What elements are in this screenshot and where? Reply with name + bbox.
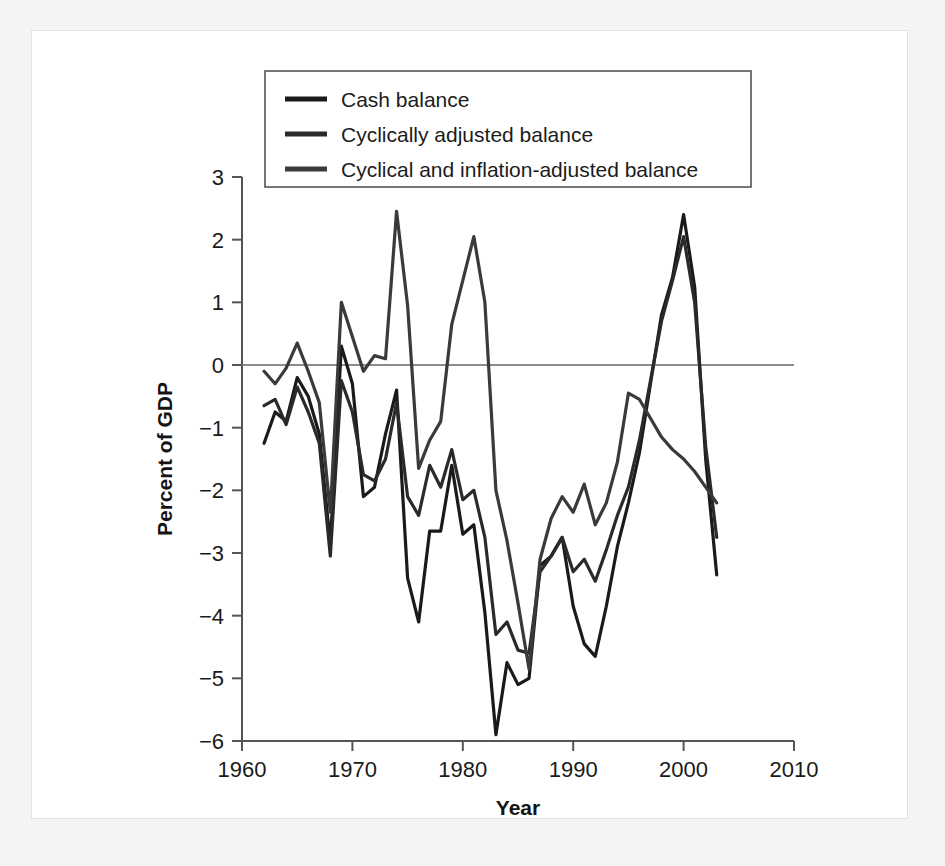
- x-tick-label: 2000: [659, 757, 708, 782]
- y-tick-label: −3: [199, 541, 224, 566]
- y-tick-label: −5: [199, 666, 224, 691]
- x-tick-label: 1960: [218, 757, 267, 782]
- y-axis-title: Percent of GDP: [153, 382, 176, 536]
- legend-label-2: Cyclically adjusted balance: [341, 123, 593, 146]
- legend-label-1: Cash balance: [341, 88, 469, 111]
- y-axis-ticks: −6−5−4−3−2−10123: [199, 165, 242, 754]
- figure-plate: −6−5−4−3−2−10123196019701980199020002010…: [31, 30, 908, 819]
- series-line-2: [264, 237, 717, 654]
- x-axis-title: Year: [496, 796, 540, 819]
- x-tick-label: 1970: [328, 757, 377, 782]
- y-tick-label: −4: [199, 604, 224, 629]
- y-tick-label: −6: [199, 729, 224, 754]
- line-chart: −6−5−4−3−2−10123196019701980199020002010…: [32, 31, 909, 820]
- y-tick-label: −1: [199, 416, 224, 441]
- chart-series-group: [264, 211, 717, 734]
- x-tick-label: 2010: [770, 757, 819, 782]
- legend-label-3: Cyclical and inflation-adjusted balance: [341, 158, 698, 181]
- figure-root: −6−5−4−3−2−10123196019701980199020002010…: [0, 0, 945, 866]
- y-tick-label: 0: [212, 353, 224, 378]
- y-tick-label: −2: [199, 478, 224, 503]
- chart-legend: Cash balanceCyclically adjusted balanceC…: [265, 71, 751, 187]
- x-axis-ticks: 196019701980199020002010: [218, 741, 819, 782]
- y-tick-label: 2: [212, 228, 224, 253]
- y-tick-label: 3: [212, 165, 224, 190]
- y-tick-label: 1: [212, 290, 224, 315]
- x-tick-label: 1990: [549, 757, 598, 782]
- series-line-3: [264, 211, 717, 668]
- x-tick-label: 1980: [438, 757, 487, 782]
